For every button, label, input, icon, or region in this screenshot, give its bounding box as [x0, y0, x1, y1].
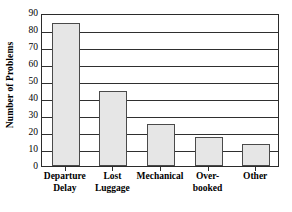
- x-category-label-line1: Other: [243, 171, 267, 181]
- plot-area: [41, 14, 279, 167]
- x-category-label: Other: [227, 171, 283, 183]
- y-tick-label: 50: [18, 77, 38, 87]
- x-category-label-line1: Lost: [103, 171, 121, 181]
- x-category-label-line1: Departure: [44, 171, 86, 181]
- bars-layer: [42, 15, 278, 166]
- y-tick-label: 80: [18, 26, 38, 36]
- y-tick-label: 20: [18, 128, 38, 138]
- y-tick-label: 0: [18, 162, 38, 172]
- y-tick-label: 90: [18, 9, 38, 19]
- x-category-label-line2: booked: [180, 183, 236, 195]
- x-category-label-line1: Over-: [196, 171, 219, 181]
- y-tick-label: 70: [18, 43, 38, 53]
- bar-chart-figure: Number of Problems 9080706050403020100 D…: [0, 0, 292, 212]
- y-tick-label: 60: [18, 60, 38, 70]
- y-axis-title-text: Number of Problems: [5, 42, 15, 128]
- bar: [52, 23, 80, 166]
- y-tick-label: 30: [18, 111, 38, 121]
- bar: [195, 137, 223, 166]
- bar: [242, 144, 270, 166]
- bar: [147, 124, 175, 167]
- y-axis-title: Number of Problems: [0, 0, 20, 170]
- x-category-label-line1: Mechanical: [137, 171, 184, 181]
- x-axis-category-labels: DepartureDelayLostLuggageMechanicalOver-…: [41, 171, 279, 211]
- x-category-label-line2: Luggage: [85, 183, 141, 195]
- bar: [99, 91, 127, 166]
- y-tick-label: 10: [18, 145, 38, 155]
- y-axis-tick-labels: 9080706050403020100: [18, 11, 38, 169]
- y-tick-label: 40: [18, 94, 38, 104]
